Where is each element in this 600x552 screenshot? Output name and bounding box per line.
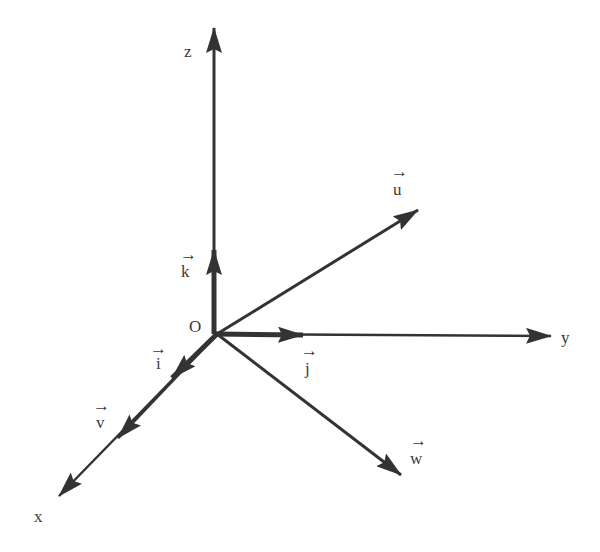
label-k: → k	[180, 245, 197, 281]
label-j: → j	[301, 341, 318, 378]
y-axis-label: y	[561, 328, 570, 347]
vector-arrow-icon: →	[391, 162, 408, 181]
vector-arrow-icon: →	[410, 431, 427, 450]
label-u-text: u	[393, 180, 402, 199]
label-j-text: j	[304, 359, 310, 378]
x-axis-label: x	[34, 507, 43, 526]
label-k-text: k	[181, 262, 190, 281]
label-v: → v	[93, 396, 110, 432]
vector-arrow-icon: →	[301, 341, 318, 360]
label-w-text: w	[410, 449, 423, 468]
vector-u	[217, 210, 418, 334]
origin-label: O	[189, 317, 201, 336]
unit-vector-i	[172, 333, 218, 378]
label-i: → i	[150, 339, 167, 373]
label-i-text: i	[156, 354, 161, 373]
coordinate-diagram: z y x O → k → j → i → u → v → w	[0, 0, 600, 552]
z-axis-label: z	[184, 42, 192, 61]
label-v-text: v	[96, 413, 105, 432]
label-u: → u	[391, 162, 408, 199]
unit-vector-j	[216, 334, 303, 335]
label-w: → w	[410, 431, 427, 468]
